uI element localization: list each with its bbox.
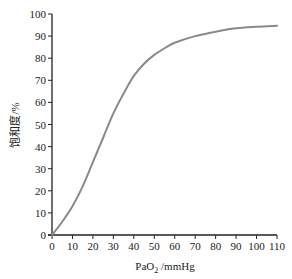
x-tick-label: 80 bbox=[210, 240, 222, 252]
y-tick-label: 30 bbox=[35, 163, 47, 175]
y-tick-label: 10 bbox=[35, 207, 47, 219]
y-tick-label: 90 bbox=[35, 30, 47, 42]
x-tick-label: 20 bbox=[87, 240, 99, 252]
x-tick-label: 50 bbox=[149, 240, 161, 252]
x-tick-label: 40 bbox=[128, 240, 140, 252]
y-tick-label: 80 bbox=[35, 52, 47, 64]
x-tick-label: 0 bbox=[49, 240, 55, 252]
x-tick-label: 70 bbox=[190, 240, 202, 252]
y-tick-label: 100 bbox=[30, 8, 47, 20]
y-tick-label: 0 bbox=[41, 229, 47, 241]
x-axis: 0102030405060708090100110 bbox=[48, 235, 286, 252]
y-tick-label: 70 bbox=[35, 74, 47, 86]
x-tick-label: 110 bbox=[269, 240, 286, 252]
saturation-curve bbox=[52, 26, 277, 235]
y-tick-label: 50 bbox=[35, 119, 47, 131]
oxygen-dissociation-chart: 0102030405060708090100 01020304050607080… bbox=[0, 0, 292, 279]
x-axis-title-main: PaO bbox=[135, 260, 154, 272]
x-axis-title: PaO2 /mmHg bbox=[135, 260, 195, 275]
y-axis-title: 饱和度/% bbox=[8, 102, 21, 147]
x-tick-label: 30 bbox=[108, 240, 120, 252]
y-tick-label: 40 bbox=[35, 141, 47, 153]
y-tick-label: 60 bbox=[35, 96, 47, 108]
x-axis-title-unit: /mmHg bbox=[158, 260, 195, 272]
x-tick-label: 100 bbox=[248, 240, 265, 252]
x-tick-label: 10 bbox=[67, 240, 79, 252]
y-tick-label: 20 bbox=[35, 185, 47, 197]
x-tick-label: 60 bbox=[169, 240, 181, 252]
x-tick-label: 90 bbox=[231, 240, 243, 252]
y-axis: 0102030405060708090100 bbox=[30, 8, 53, 241]
